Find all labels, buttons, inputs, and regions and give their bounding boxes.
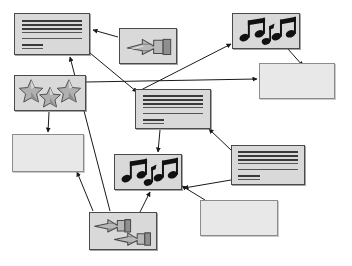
diagram-canvas xyxy=(0,0,352,266)
hands-node-bottom-center[interactable] xyxy=(89,212,157,250)
text-lines-icon xyxy=(238,151,297,182)
edge-empty-bottom-right-to-music xyxy=(182,186,205,200)
document-node-right[interactable] xyxy=(231,145,305,185)
music-notes-icon xyxy=(233,14,299,48)
text-lines-icon xyxy=(143,95,204,126)
empty-node-right-upper[interactable] xyxy=(259,63,335,99)
edge-center-to-music-lower xyxy=(158,130,160,152)
empty-node-bottom-right[interactable] xyxy=(200,200,278,236)
three-stars-icon xyxy=(15,76,85,110)
edge-stars-to-empty-left xyxy=(48,112,49,132)
document-node-center[interactable] xyxy=(135,89,211,129)
edge-hand-to-document-top-left xyxy=(93,30,118,37)
music-notes-icon xyxy=(115,155,181,189)
edge-document-right-to-music xyxy=(184,180,231,188)
edge-stars-to-empty-right-upper xyxy=(86,79,257,82)
document-node-top-left[interactable] xyxy=(14,13,90,55)
pointing-hand-icon xyxy=(120,29,176,63)
text-lines-icon xyxy=(22,20,83,51)
hand-node-top-center[interactable] xyxy=(119,28,177,64)
edge-hands-to-empty-left-middle xyxy=(77,172,93,211)
music-node-center-lower[interactable] xyxy=(114,154,182,190)
stars-node-left[interactable] xyxy=(14,75,86,111)
double-pointing-hands-icon xyxy=(90,213,156,249)
empty-node-left-middle[interactable] xyxy=(12,134,84,172)
edge-hands-to-music-lower xyxy=(140,192,150,212)
edge-document-right-to-center xyxy=(209,129,231,150)
music-node-top-right[interactable] xyxy=(232,13,300,49)
